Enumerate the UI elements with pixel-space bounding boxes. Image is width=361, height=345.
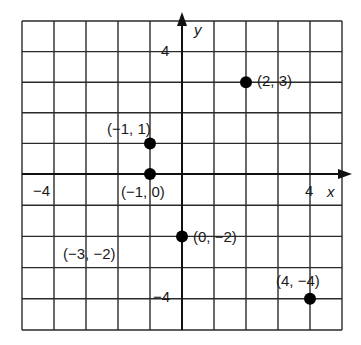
point-label-neg1-0: (−1, 0) — [121, 183, 165, 200]
point-marker — [304, 293, 316, 305]
tick-label-y-neg-4: −4 — [153, 288, 170, 305]
point-label-0-neg2: (0, −2) — [193, 228, 237, 245]
tick-label-x-pos-4: 4 — [305, 182, 313, 199]
tick-label-y-pos-4: 4 — [161, 42, 169, 59]
point-label-4-neg4: (4, −4) — [276, 272, 320, 289]
point-marker — [144, 137, 156, 149]
y-axis-label: y — [193, 21, 203, 38]
x-axis-label: x — [326, 183, 335, 200]
tick-label-x-neg-4: −4 — [33, 182, 50, 199]
point-marker — [144, 168, 156, 180]
y-axis — [177, 12, 187, 330]
point-marker — [176, 230, 188, 242]
x-axis-arrow-icon — [338, 169, 352, 179]
point-label-2-3: (2, 3) — [257, 72, 292, 89]
plotted-points — [144, 76, 316, 305]
x-axis — [22, 169, 352, 179]
coordinate-plane: y x 4 −4 −4 4 (2, 3) (−1, 1) (−1, 0) (0,… — [0, 0, 361, 345]
point-label-neg3-neg2: (−3, −2) — [63, 245, 116, 262]
y-axis-arrow-icon — [177, 12, 187, 26]
point-marker — [240, 76, 252, 88]
point-label-neg1-1: (−1, 1) — [107, 120, 151, 137]
